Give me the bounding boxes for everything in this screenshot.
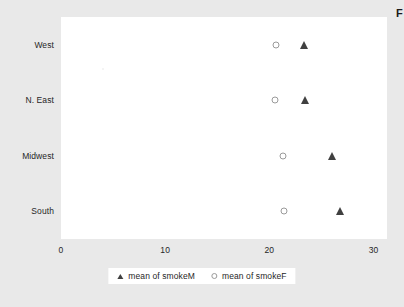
x-axis-tick-label: 10 bbox=[160, 245, 170, 255]
x-axis-tick-label: 0 bbox=[59, 245, 64, 255]
data-point-smokef bbox=[272, 41, 279, 48]
x-axis: 0102030 bbox=[61, 239, 387, 261]
legend-label: mean of smokeF bbox=[222, 271, 287, 281]
y-axis: WestN. EastMidwestSouth bbox=[0, 17, 61, 239]
data-point-smokef bbox=[271, 97, 278, 104]
data-point-smokem bbox=[301, 96, 309, 104]
y-axis-tick-label: N. East bbox=[25, 95, 61, 105]
x-axis-tick-label: 20 bbox=[264, 245, 274, 255]
data-point-smokef bbox=[280, 208, 287, 215]
y-axis-tick-label: South bbox=[31, 206, 61, 216]
y-axis-tick-label: Midwest bbox=[22, 151, 61, 161]
circle-icon bbox=[211, 273, 217, 279]
legend-item: mean of smokeM bbox=[117, 271, 195, 281]
plot-area bbox=[61, 17, 387, 239]
y-axis-tick-label: West bbox=[34, 40, 61, 50]
triangle-icon bbox=[117, 274, 123, 279]
legend-label: mean of smokeM bbox=[128, 271, 195, 281]
plot-panel bbox=[61, 17, 387, 239]
data-point-smokef bbox=[279, 152, 286, 159]
data-point-smokem bbox=[336, 207, 344, 215]
data-point-smokem bbox=[328, 152, 336, 160]
edge-caption-text: F bbox=[396, 7, 403, 19]
chart-root: F WestN. EastMidwestSouth 0102030 mean o… bbox=[0, 0, 404, 307]
x-axis-tick-label: 30 bbox=[369, 245, 379, 255]
legend-item: mean of smokeF bbox=[211, 271, 287, 281]
image-artifact-speck bbox=[102, 68, 104, 70]
chart-legend: mean of smokeMmean of smokeF bbox=[108, 268, 295, 284]
data-point-smokem bbox=[300, 41, 308, 49]
